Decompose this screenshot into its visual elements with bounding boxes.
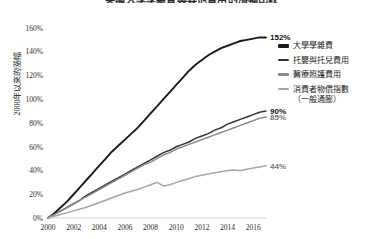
legend-item[interactable]: 醫療照護費用 — [278, 69, 384, 80]
legend-swatch-icon — [278, 88, 289, 91]
series-lines — [48, 37, 266, 218]
y-axis-ticks: 0%20%40%60%80%100%120%140%160% — [26, 24, 44, 223]
legend-label: 大學學雜費 — [293, 40, 333, 51]
x-tick-label: 2008 — [143, 223, 158, 232]
y-tick-label: 120% — [26, 71, 44, 80]
x-tick-label: 2004 — [92, 223, 107, 232]
y-tick-label: 100% — [26, 95, 44, 104]
x-axis-ticks: 200020022004200620082010201220142016 — [41, 223, 261, 232]
y-tick-label: 60% — [29, 143, 43, 152]
chart-screenshot: 美國大學學雜費與其他費用的漲幅比較 2000年以來的漲幅 0%20%40%60%… — [0, 0, 384, 239]
x-tick-label: 2016 — [246, 223, 261, 232]
x-tick-label: 2000 — [41, 223, 56, 232]
legend-label: 托嬰與托兒費用 — [293, 55, 349, 66]
y-tick-label: 0% — [33, 214, 43, 223]
series-line — [48, 111, 266, 218]
series-end-label: 44% — [270, 162, 286, 171]
series-end-label: 85% — [270, 113, 286, 122]
x-tick-label: 2014 — [220, 223, 235, 232]
legend-swatch-icon — [278, 73, 289, 76]
y-tick-label: 140% — [26, 47, 44, 56]
y-tick-label: 20% — [29, 190, 43, 199]
y-tick-label: 160% — [26, 24, 44, 33]
x-tick-label: 2002 — [66, 223, 81, 232]
legend-label: 醫療照護費用 — [293, 69, 341, 80]
legend-sublabel: （一般通膨） — [293, 94, 349, 105]
legend-swatch-icon — [278, 44, 289, 48]
y-tick-label: 80% — [29, 119, 43, 128]
line-chart-plot: 0%20%40%60%80%100%120%140%160% 200020022… — [0, 0, 384, 239]
y-tick-label: 40% — [29, 166, 43, 175]
legend-swatch-icon — [278, 59, 289, 62]
series-line — [48, 166, 266, 218]
chart-legend: 大學學雜費托嬰與托兒費用醫療照護費用消費者物價指數（一般通膨） — [278, 40, 384, 108]
series-line — [48, 117, 266, 218]
legend-item[interactable]: 消費者物價指數（一般通膨） — [278, 84, 384, 105]
x-tick-label: 2006 — [117, 223, 132, 232]
legend-item[interactable]: 托嬰與托兒費用 — [278, 55, 384, 66]
legend-item[interactable]: 大學學雜費 — [278, 40, 384, 51]
x-tick-label: 2010 — [169, 223, 184, 232]
x-tick-label: 2012 — [194, 223, 209, 232]
legend-label: 消費者物價指數 — [293, 84, 349, 95]
